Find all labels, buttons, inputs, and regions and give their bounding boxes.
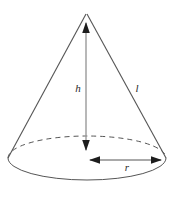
- base-front-arc: [8, 158, 166, 180]
- base-back-arc-dashed: [8, 136, 166, 158]
- height-label: h: [75, 82, 81, 94]
- cone-right-slant-line: [87, 14, 166, 158]
- slant-height-label: l: [135, 82, 138, 94]
- cone-diagram-svg: h l r: [0, 0, 173, 200]
- radius-label: r: [125, 161, 130, 173]
- cone-diagram-canvas: h l r: [0, 0, 173, 200]
